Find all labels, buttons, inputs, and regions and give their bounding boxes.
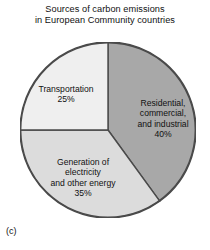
slice-label-transportation: Transportation 25%: [21, 84, 111, 105]
figure-caption: (c): [6, 226, 17, 237]
slice-label-residential: Residential, commercial, and industrial …: [120, 98, 206, 139]
slice-label-generation: Generation of electricity and other ener…: [30, 157, 136, 198]
chart-title: Sources of carbon emissions in European …: [0, 4, 210, 27]
pie-chart-figure: Sources of carbon emissions in European …: [0, 0, 210, 250]
